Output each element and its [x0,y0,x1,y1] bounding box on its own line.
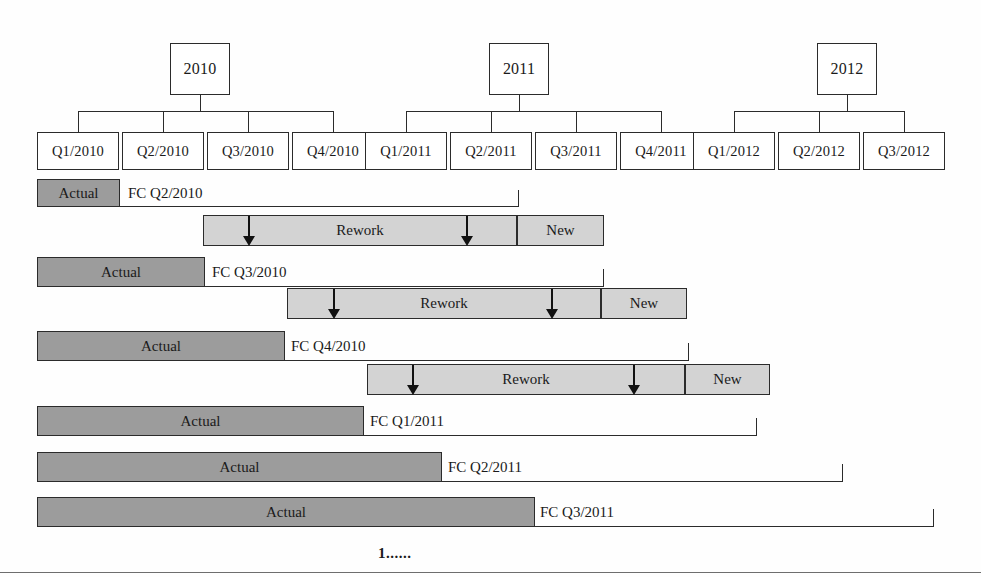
actual-bar: Actual [37,179,120,207]
forecast-horizon-line [535,526,933,527]
quarter-box-q3-2010: Q3/2010 [207,132,289,170]
year-label: 2012 [831,60,864,78]
connector-rail-2010 [78,111,333,112]
quarter-label: Q1/2012 [708,143,760,160]
quarter-label: Q1/2010 [52,143,104,160]
quarter-box-q2-2011: Q2/2011 [450,132,532,170]
quarter-label: Q2/2012 [793,143,845,160]
forecast-horizon-end-tick [603,269,604,287]
forecast-horizon-end-tick [688,343,689,361]
connector-drop-q4-2011 [661,111,662,132]
connector-drop-q1-2011 [406,111,407,132]
actual-bar-label: Actual [220,459,260,476]
new-bar: New [685,364,770,395]
quarter-box-q4-2010: Q4/2010 [292,132,374,170]
forecast-label: FC Q1/2011 [370,414,444,429]
forecast-horizon-end-tick [933,509,934,527]
new-bar: New [517,215,604,246]
forecast-label: FC Q3/2010 [212,265,287,280]
actual-bar-label: Actual [266,504,306,521]
forecast-horizon-line [120,206,518,207]
quarter-box-q4-2011: Q4/2011 [620,132,702,170]
actual-bar-label: Actual [101,264,141,281]
connector-stem-2012 [847,95,848,111]
actual-bar: Actual [37,257,205,287]
year-box-2011: 2011 [489,43,549,95]
forecast-horizon-end-tick [842,464,843,482]
year-box-2010: 2010 [170,43,230,95]
quarter-label: Q3/2012 [878,143,930,160]
actual-bar: Actual [37,452,442,482]
connector-rail-2011 [406,111,661,112]
year-label: 2011 [503,60,535,78]
quarter-box-q2-2010: Q2/2010 [122,132,204,170]
quarter-label: Q2/2010 [137,143,189,160]
forecast-label: FC Q4/2010 [291,339,366,354]
connector-drop-q2-2010 [163,111,164,132]
actual-bar-label: Actual [141,338,181,355]
figure-canvas: 2010 2011 2012 Q1/2010 Q2/2010 Q3/2010 Q… [0,0,981,577]
connector-drop-q1-2010 [78,111,79,132]
forecast-label: FC Q3/2011 [540,505,614,520]
forecast-horizon-line [442,481,842,482]
connector-stem-2011 [519,95,520,111]
forecast-horizon-end-tick [756,418,757,436]
new-bar: New [601,288,687,319]
quarter-label: Q3/2010 [222,143,274,160]
connector-drop-q3-2012 [904,111,905,132]
rework-bar-label: Rework [336,222,384,239]
year-label: 2010 [184,60,217,78]
rework-bar-label: Rework [502,371,550,388]
quarter-box-q3-2011: Q3/2011 [535,132,617,170]
quarter-box-q3-2012: Q3/2012 [863,132,945,170]
quarter-box-q1-2012: Q1/2012 [693,132,775,170]
rework-bar-label: Rework [420,295,468,312]
quarter-label: Q1/2011 [380,143,432,160]
quarter-label: Q4/2010 [307,143,359,160]
forecast-label: FC Q2/2010 [128,186,203,201]
connector-drop-q3-2010 [248,111,249,132]
actual-bar: Actual [37,406,364,436]
forecast-horizon-line [285,360,688,361]
forecast-horizon-end-tick [518,190,519,207]
new-bar-label: New [546,222,574,239]
page-bottom-rule [0,572,981,573]
quarter-box-q2-2012: Q2/2012 [778,132,860,170]
connector-drop-q2-2011 [491,111,492,132]
quarter-box-q1-2011: Q1/2011 [365,132,447,170]
forecast-label: FC Q2/2011 [448,460,522,475]
quarter-label: Q3/2011 [550,143,602,160]
actual-bar-label: Actual [181,413,221,430]
connector-drop-q3-2011 [576,111,577,132]
new-bar-label: New [630,295,658,312]
actual-bar: Actual [37,331,285,361]
forecast-horizon-line [205,286,603,287]
connector-drop-q2-2012 [819,111,820,132]
quarter-box-q1-2010: Q1/2010 [37,132,119,170]
year-box-2012: 2012 [817,43,877,95]
connector-drop-q1-2012 [734,111,735,132]
connector-drop-q4-2010 [333,111,334,132]
actual-bar-label: Actual [59,185,99,202]
actual-bar: Actual [37,497,535,527]
quarter-label: Q2/2011 [465,143,517,160]
forecast-horizon-line [364,435,756,436]
connector-stem-2010 [200,95,201,111]
new-bar-label: New [713,371,741,388]
figure-footnote: 1...... [378,545,412,562]
quarter-label: Q4/2011 [635,143,687,160]
